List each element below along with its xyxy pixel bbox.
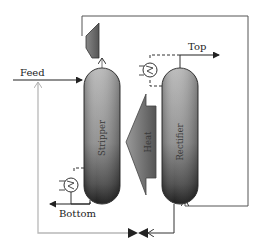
top-stream: Top bbox=[180, 41, 219, 68]
feed-label: Feed bbox=[20, 67, 45, 78]
reboiler-icon bbox=[59, 168, 84, 192]
bottom-label: Bottom bbox=[59, 208, 96, 219]
valve-icon[interactable] bbox=[128, 228, 148, 238]
feed-stream: Feed bbox=[13, 67, 82, 80]
rectifier-label: Rectifier bbox=[175, 123, 185, 161]
rectifier-column: Rectifier bbox=[162, 68, 198, 204]
stripper-column: Stripper bbox=[84, 68, 120, 204]
compressor-icon bbox=[86, 23, 99, 58]
rectifier-liquid-line bbox=[148, 204, 174, 233]
heat-label: Heat bbox=[143, 131, 153, 153]
top-label: Top bbox=[188, 41, 206, 52]
heat-integrated-distillation-diagram: Feed Stripper Heat Rectifier Top bbox=[0, 0, 262, 249]
stripper-label: Stripper bbox=[97, 119, 107, 156]
heat-arrow: Heat bbox=[126, 94, 156, 195]
